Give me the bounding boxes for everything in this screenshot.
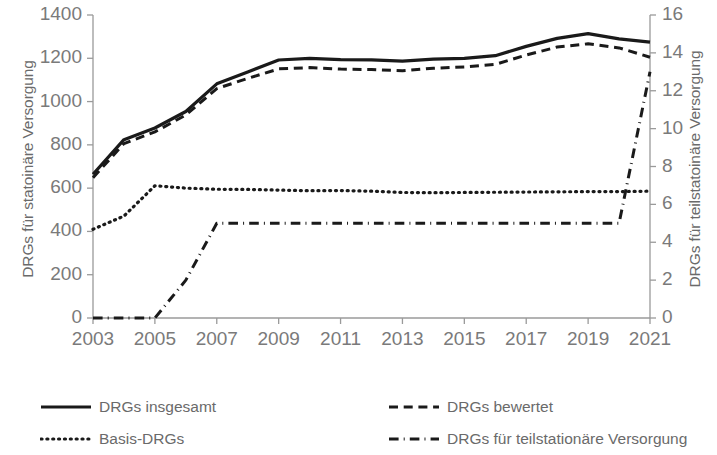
y-axis-left-tick-label: 600 — [20, 176, 82, 198]
legend-label: DRGs für teilstationäre Versorgung — [447, 430, 687, 448]
y-axis-right-tick-label: 2 — [662, 268, 704, 290]
y-axis-right-tick-label: 10 — [662, 117, 704, 139]
series-line — [93, 72, 650, 318]
y-axis-right-tick-label: 4 — [662, 230, 704, 252]
legend-swatch-dotted — [40, 432, 92, 446]
x-axis-tick-label: 2013 — [373, 328, 431, 350]
y-axis-left-tick-label: 800 — [20, 133, 82, 155]
x-axis-tick-label: 2017 — [497, 328, 555, 350]
legend-item-basis-drgs: Basis-DRGs — [40, 428, 184, 450]
legend-item-drgs-bewertet: DRGs bewertet — [388, 396, 553, 418]
y-axis-left-tick-label: 1400 — [20, 3, 82, 25]
x-axis-tick-label: 2015 — [435, 328, 493, 350]
legend-label: Basis-DRGs — [99, 430, 184, 448]
legend-swatch-solid — [40, 400, 92, 414]
x-axis-tick-label: 2021 — [621, 328, 679, 350]
y-axis-left-tick-label: 1200 — [20, 46, 82, 68]
y-axis-right-tick-label: 12 — [662, 79, 704, 101]
y-axis-left-tick-label: 200 — [20, 263, 82, 285]
legend-item-drgs-insgesamt: DRGs insgesamt — [40, 396, 216, 418]
legend-label: DRGs insgesamt — [99, 398, 216, 416]
legend-swatch-dashed — [388, 400, 440, 414]
legend-item-teilstationaere: DRGs für teilstationäre Versorgung — [388, 428, 687, 450]
x-axis-tick-label: 2019 — [559, 328, 617, 350]
chart-figure: DRGs für statoinäre Versorgung DRGs für … — [0, 0, 717, 455]
x-axis-tick-label: 2009 — [250, 328, 308, 350]
y-axis-left-tick-label: 0 — [20, 306, 82, 328]
legend-swatch-dashdot — [388, 432, 440, 446]
y-axis-right-tick-label: 16 — [662, 3, 704, 25]
x-axis-tick-label: 2011 — [312, 328, 370, 350]
series-line — [93, 44, 650, 178]
x-axis-tick-label: 2005 — [126, 328, 184, 350]
x-axis-tick-label: 2003 — [64, 328, 122, 350]
x-axis-tick-label: 2007 — [188, 328, 246, 350]
legend-label: DRGs bewertet — [447, 398, 553, 416]
chart-legend: DRGs insgesamt Basis-DRGs DRGs bewertet … — [0, 388, 717, 455]
series-line — [93, 34, 650, 175]
y-axis-left-tick-label: 400 — [20, 219, 82, 241]
y-axis-right-tick-label: 0 — [662, 306, 704, 328]
y-axis-left-tick-label: 1000 — [20, 90, 82, 112]
y-axis-right-tick-label: 6 — [662, 192, 704, 214]
plot-area — [0, 0, 717, 455]
y-axis-right-tick-label: 8 — [662, 155, 704, 177]
y-axis-right-tick-label: 14 — [662, 41, 704, 63]
